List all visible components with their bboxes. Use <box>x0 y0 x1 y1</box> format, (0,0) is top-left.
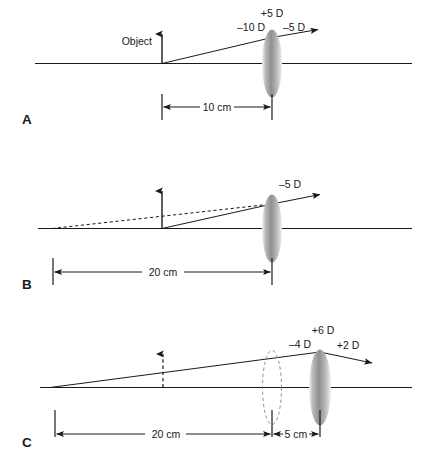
panel-letter-a: A <box>22 112 32 127</box>
incident-ray-c <box>50 352 320 388</box>
optics-ray-diagram-figure: +5 D –10 D –5 D Object 10 cm A –5 D <box>0 0 423 458</box>
incident-ray-b <box>162 204 272 229</box>
refracted-ray-b <box>272 195 320 205</box>
lens-a <box>262 30 282 98</box>
panel-a: +5 D –10 D –5 D Object 10 cm A <box>22 7 412 127</box>
panel-letter-b: B <box>22 277 32 292</box>
lens-b <box>262 195 282 263</box>
vergence-out-label-a: –5 D <box>283 21 306 33</box>
vergence-out-label-b: –5 D <box>279 178 302 190</box>
panel-letter-c: C <box>22 435 32 450</box>
vergence-in-label-a: –10 D <box>237 21 265 33</box>
vergence-in-label-c: –4 D <box>289 338 312 350</box>
object-label-a: Object <box>122 35 152 47</box>
dim-label-a: 10 cm <box>203 101 232 113</box>
dim-label-c1: 20 cm <box>152 428 181 440</box>
dim-label-c2: 5 cm <box>285 428 308 440</box>
dim-label-b: 20 cm <box>149 266 178 278</box>
panel-c: +6 D –4 D +2 D 20 cm 5 cm C <box>22 324 412 450</box>
incident-ray-a <box>162 38 272 64</box>
vergence-out-label-c: +2 D <box>337 339 360 351</box>
lens-power-label-c: +6 D <box>312 324 335 336</box>
lens-power-label-a: +5 D <box>261 7 284 19</box>
panel-b: –5 D 20 cm B <box>22 178 412 292</box>
